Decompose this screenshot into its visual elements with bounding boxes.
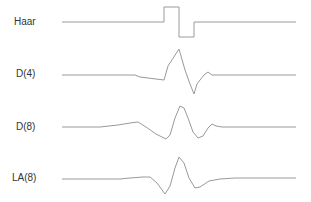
- haar-wavelet-line: [62, 7, 296, 37]
- d4-label: D(4): [16, 68, 35, 80]
- la8-wavelet-line: [62, 157, 296, 194]
- d4-wavelet-line: [62, 49, 296, 94]
- d8-label: D(8): [16, 121, 35, 133]
- la8-label: LA(8): [12, 172, 36, 184]
- d8-wavelet-line: [62, 106, 296, 139]
- wavelet-plot: [0, 0, 311, 202]
- haar-label: Haar: [14, 16, 36, 28]
